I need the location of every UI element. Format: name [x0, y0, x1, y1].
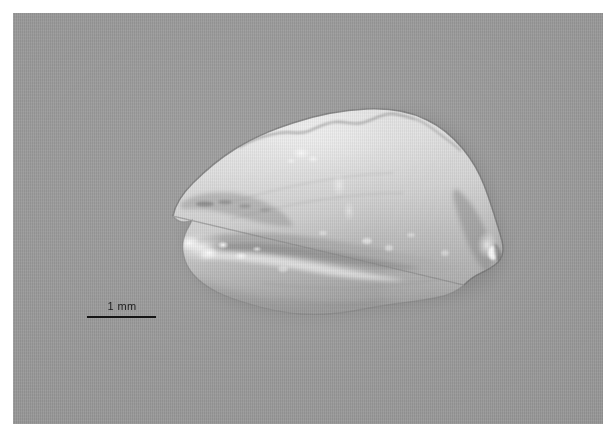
scale-bar-label: 1 mm — [88, 300, 156, 313]
otolith-specimen — [153, 93, 518, 328]
scale-bar-line — [87, 316, 156, 318]
figure-root: 1 mm — [0, 0, 606, 427]
scale-bar: 1 mm — [87, 300, 167, 318]
specimen-photograph: 1 mm — [13, 13, 603, 424]
otolith-rendering — [153, 93, 518, 328]
